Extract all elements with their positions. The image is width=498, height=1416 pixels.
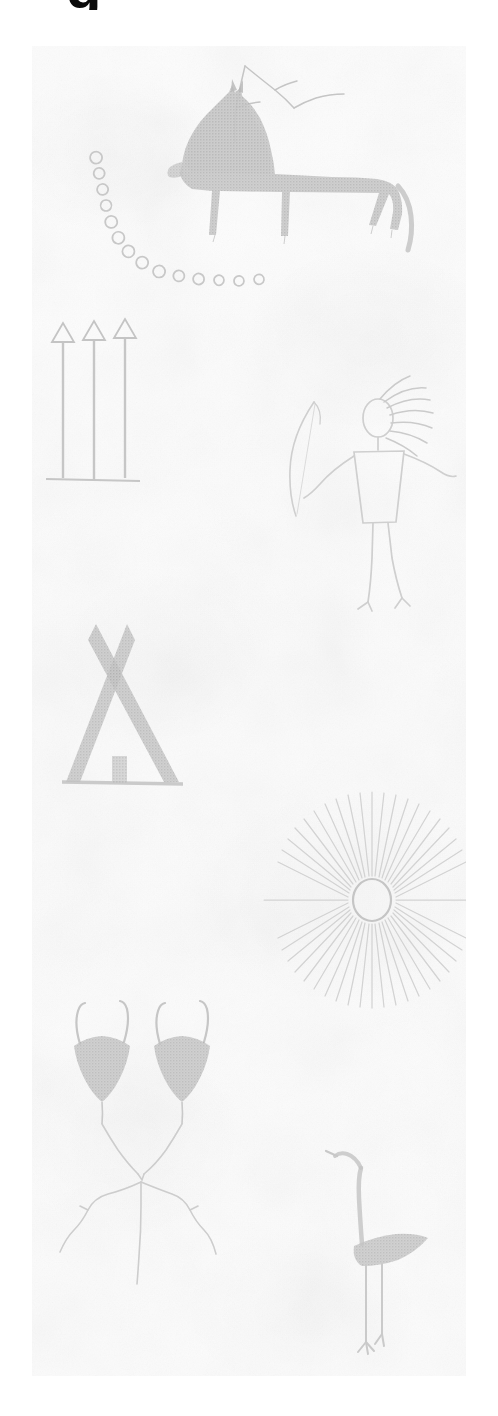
tipi-icon [62,624,183,784]
arrows-icon [46,319,140,481]
scanned-paper-plate [32,46,466,1376]
sun-icon [264,792,466,1008]
pictograph-page: g [0,0,498,1416]
warrior-icon [290,376,456,611]
crane-icon [326,1151,428,1354]
horse-icon [168,66,412,250]
pictograph-artwork [32,46,466,1376]
cut-off-letter-glyph: g [66,0,110,10]
buffalo-heads-icon [60,1001,216,1284]
